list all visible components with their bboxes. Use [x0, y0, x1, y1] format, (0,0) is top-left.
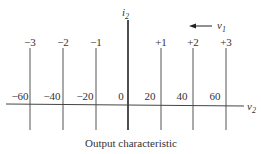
v1-level-label: +2 [187, 36, 199, 48]
v2-tick-label: −60 [11, 90, 29, 102]
i2-label: i2 [122, 6, 129, 21]
caption: Output characteristic [85, 137, 177, 149]
output-characteristic-diagram: i2 v1 v2 −3 −2 −1 +1 +2 +3 −60 −40 −20 0… [0, 0, 261, 154]
v2-tick-label: 40 [177, 90, 189, 102]
v1-label: v1 [217, 19, 226, 34]
v1-level-label: −2 [57, 36, 69, 48]
v2-label: v2 [247, 100, 256, 115]
v1-level-label: −1 [90, 36, 102, 48]
v2-tick-label: 20 [145, 90, 157, 102]
v1-level-label: +3 [220, 36, 232, 48]
v2-tick-label: −40 [43, 90, 61, 102]
v2-tick-label: 0 [118, 90, 124, 102]
v1-level-label: +1 [155, 36, 167, 48]
v2-tick-label: −20 [76, 90, 94, 102]
v2-tick-label: 60 [210, 90, 222, 102]
v2-axis [6, 104, 244, 106]
v1-level-label: −3 [24, 36, 36, 48]
arrow-left-icon [189, 24, 196, 29]
